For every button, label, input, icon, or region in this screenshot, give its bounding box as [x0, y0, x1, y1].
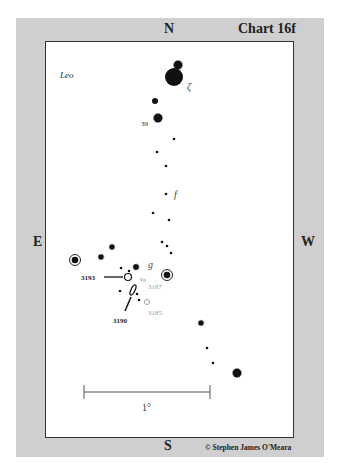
star-zeta-icon	[165, 68, 183, 86]
star-icon	[168, 219, 171, 222]
galaxy-3190-label: 3190	[113, 317, 128, 325]
star-icon	[164, 272, 171, 279]
star-icon	[233, 369, 242, 378]
galaxy-3185-icon	[144, 299, 149, 304]
star-g-label: g	[148, 259, 153, 270]
star-icon	[120, 267, 123, 270]
star-icon	[98, 254, 104, 260]
star-39-icon	[154, 114, 163, 123]
star-icon	[206, 347, 209, 350]
star-g-icon	[133, 264, 139, 270]
star-icon	[128, 270, 131, 273]
constellation-label: Leo	[59, 70, 74, 80]
scale-bar-label: 1°	[142, 402, 151, 413]
galaxy-3193-label: 3193	[81, 274, 96, 282]
galaxy-3193-icon	[125, 274, 132, 281]
star-icon	[72, 257, 79, 264]
star-39-label: 39	[141, 120, 149, 128]
star-icon	[136, 293, 139, 296]
star-icon	[152, 98, 158, 104]
star-icon	[165, 165, 168, 168]
galaxy-3187-label: 3187	[148, 283, 163, 291]
star-f-icon	[165, 193, 168, 196]
star-icon	[109, 244, 115, 250]
galaxy-3187-icon	[140, 278, 146, 281]
star-field: Leo ζ 39 f g 3193 3187 3190 3185 1°	[0, 0, 339, 472]
star-icon	[166, 245, 169, 248]
star-icon	[173, 138, 176, 141]
star-icon	[161, 241, 164, 244]
star-icon	[198, 320, 204, 326]
galaxy-3185-label: 3185	[148, 309, 163, 317]
star-icon	[212, 362, 215, 365]
star-icon	[138, 299, 141, 302]
star-icon	[170, 252, 173, 255]
star-icon	[119, 290, 122, 293]
star-icon	[156, 151, 159, 154]
star-icon	[152, 212, 155, 215]
star-zeta-label: ζ	[187, 81, 192, 93]
star-f-label: f	[174, 189, 178, 200]
pointer-line	[125, 297, 131, 311]
